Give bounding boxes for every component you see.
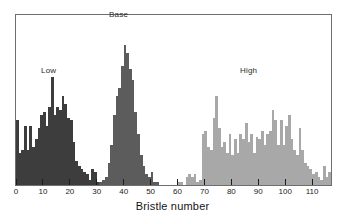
x-axis-tick-label: 0 — [14, 187, 18, 196]
histogram-bar — [202, 134, 205, 185]
x-axis-tick-label: 50 — [146, 187, 155, 196]
histogram-bar — [291, 139, 294, 185]
histogram-bar — [113, 115, 116, 185]
histogram-bar — [29, 126, 32, 185]
histogram-bar — [16, 120, 19, 185]
histogram-bar — [140, 155, 143, 185]
histogram-bar — [156, 182, 159, 185]
histogram-bar — [62, 96, 65, 185]
histogram-series-high — [178, 96, 331, 185]
histogram-bar — [134, 112, 137, 185]
histogram-bar — [126, 53, 129, 185]
histogram-bar — [124, 45, 127, 185]
histogram-bar — [328, 172, 331, 185]
histogram-bar — [48, 107, 51, 185]
histogram-bar — [105, 177, 108, 185]
histogram-bar — [196, 182, 199, 185]
histogram-bar — [218, 128, 221, 185]
histogram-bar — [210, 150, 213, 185]
histogram-bar — [242, 139, 245, 185]
histogram-bar — [67, 118, 70, 185]
histogram-bar — [213, 118, 216, 185]
histogram-bar — [315, 172, 318, 185]
histogram-bar — [54, 115, 57, 185]
histogram-bar — [204, 131, 207, 185]
histogram-bar — [307, 166, 310, 185]
histogram-bar — [283, 145, 286, 185]
histogram-bar — [226, 153, 229, 185]
histogram-bar — [277, 145, 280, 185]
histogram-figure: Low Base High 0102030405060708090100110 … — [0, 0, 345, 224]
histogram-bar — [285, 126, 288, 185]
histogram-bar — [320, 180, 323, 185]
histogram-bar — [35, 139, 38, 185]
histogram-bar — [129, 69, 132, 185]
histogram-bar — [248, 142, 251, 185]
histogram-bar — [293, 150, 296, 185]
histogram-bar — [258, 139, 261, 185]
histogram-bar — [180, 182, 183, 185]
histogram-bar — [256, 137, 259, 185]
histogram-bar — [27, 150, 30, 185]
histogram-bar — [56, 107, 59, 185]
histogram-bar — [21, 150, 24, 185]
histogram-bar — [81, 169, 84, 185]
histogram-bar — [199, 180, 202, 185]
histogram-bar — [89, 180, 92, 185]
histogram-bar — [253, 153, 256, 185]
histogram-series-low — [16, 77, 108, 185]
histogram-bar — [70, 120, 73, 185]
histogram-bar — [288, 115, 291, 185]
histogram-bar — [237, 153, 240, 185]
x-axis-tick-label: 90 — [254, 187, 263, 196]
x-axis-tick-label: 110 — [306, 187, 319, 196]
histogram-bar — [121, 66, 124, 185]
histogram-bar — [269, 131, 272, 185]
x-axis-tick-label: 10 — [38, 187, 47, 196]
histogram-bar — [326, 177, 329, 185]
histogram-bar — [194, 174, 197, 185]
histogram-bar — [102, 180, 105, 185]
x-axis-tick-label: 20 — [65, 187, 74, 196]
x-axis-tick-label: 100 — [279, 187, 292, 196]
histogram-bar — [296, 155, 299, 185]
x-axis-tick-label: 60 — [173, 187, 182, 196]
histogram-bar — [64, 104, 67, 185]
histogram-bar — [234, 139, 237, 185]
histogram-bar — [78, 166, 81, 185]
histogram-bar — [132, 80, 135, 185]
series-label-low: Low — [41, 66, 56, 75]
x-axis-tick-label: 80 — [227, 187, 236, 196]
histogram-bar — [145, 174, 148, 185]
histogram-bar — [153, 182, 156, 185]
histogram-bar — [239, 134, 242, 185]
histogram-bar — [272, 110, 275, 185]
histogram-bar — [250, 134, 253, 185]
series-label-high: High — [240, 66, 257, 75]
histogram-bar — [118, 88, 121, 185]
histogram-bar — [59, 110, 62, 185]
x-axis-tick-labels: 0102030405060708090100110 — [0, 187, 345, 201]
histogram-bar — [207, 147, 210, 185]
histogram-plot — [15, 14, 332, 186]
histogram-bar — [19, 153, 22, 185]
histogram-bar — [75, 161, 78, 185]
histogram-bar — [245, 123, 248, 185]
histogram-bar — [188, 174, 191, 185]
histogram-bar — [323, 166, 326, 185]
histogram-bar — [32, 147, 35, 185]
x-axis-title: Bristle number — [0, 200, 345, 212]
histogram-bar — [223, 142, 226, 185]
histogram-bar — [38, 128, 41, 185]
histogram-bar — [24, 126, 27, 185]
histogram-bar — [40, 115, 43, 185]
histogram-bar — [86, 174, 89, 185]
histogram-bar — [43, 112, 46, 185]
histogram-bar — [143, 166, 146, 185]
histogram-bar — [221, 147, 224, 185]
histogram-bar — [46, 126, 49, 185]
histogram-bar — [191, 177, 194, 185]
histogram-bar — [73, 142, 76, 185]
histogram-series-base — [99, 45, 158, 185]
histogram-bar — [301, 150, 304, 185]
